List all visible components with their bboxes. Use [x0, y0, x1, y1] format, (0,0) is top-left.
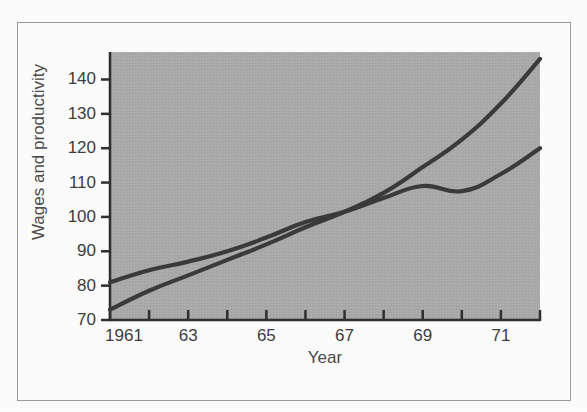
chart-figure: Wages and productivity Year 708090100110… — [0, 0, 587, 412]
plot-canvas — [0, 0, 587, 412]
